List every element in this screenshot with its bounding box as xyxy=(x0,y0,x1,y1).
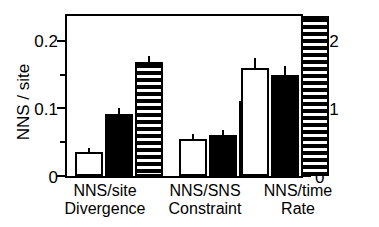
group-label-3-line1: NNS/time xyxy=(264,182,332,199)
errorbar-group1-solid xyxy=(118,108,120,114)
bar-group3-striped xyxy=(301,16,329,176)
tick-left-0.05 xyxy=(60,141,67,143)
bar-group1-striped xyxy=(135,62,163,176)
group-label-2-line1: NNS/SNS xyxy=(169,182,240,199)
group-label-1-line2: Divergence xyxy=(50,200,160,218)
errorbar-group2-solid xyxy=(222,130,224,135)
errorbar-group1-striped xyxy=(148,56,150,62)
tick-left-0 xyxy=(57,175,67,177)
bar-group2-solid xyxy=(209,135,237,176)
tick-left-0.1 xyxy=(57,107,67,109)
bar-group3-open xyxy=(241,68,269,176)
group-label-1: NNS/site Divergence xyxy=(50,182,160,218)
bar-group1-open xyxy=(75,152,103,176)
y-tick-label-left-0.1: 0.1 xyxy=(18,100,58,120)
group-label-3-line2: Rate xyxy=(243,200,353,218)
y-tick-label-left-0.2: 0.2 xyxy=(18,32,58,52)
errorbar-group3-solid xyxy=(284,66,286,75)
bar-chart-figure: NNS / site NNS / site / 1000 Myr 0.2 0.1… xyxy=(0,0,379,227)
plot-area xyxy=(65,14,303,178)
group-label-3: NNS/time Rate xyxy=(243,182,353,218)
group-label-1-line1: NNS/site xyxy=(73,182,136,199)
bar-group1-solid xyxy=(105,114,133,176)
bar-group2-open xyxy=(179,139,207,176)
errorbar-group3-open xyxy=(254,58,256,68)
bar-group3-solid xyxy=(271,75,299,176)
errorbar-group1-open xyxy=(88,148,90,152)
errorbar-group2-open xyxy=(192,134,194,139)
tick-left-0.15 xyxy=(60,74,67,76)
tick-left-0.2 xyxy=(57,40,67,42)
